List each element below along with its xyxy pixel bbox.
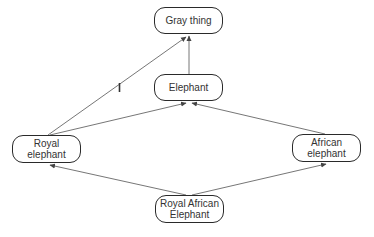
node-elephant: Elephant xyxy=(154,74,223,101)
node-royal-african-elephant: Royal African Elephant xyxy=(155,195,224,223)
node-gray-thing: Gray thing xyxy=(154,7,223,34)
node-label: Elephant xyxy=(169,82,208,93)
node-label-line-1: African xyxy=(311,137,342,148)
edge-royal-african-to-african-elephant xyxy=(192,164,326,195)
node-label-line-2: elephant xyxy=(307,148,345,159)
node-label: Gray thing xyxy=(165,15,211,26)
node-label-line-1: Royal xyxy=(34,138,60,149)
node-label-line-2: Elephant xyxy=(170,209,209,220)
node-royal-elephant: Royal elephant xyxy=(12,135,81,163)
node-label-line-1: Royal African xyxy=(160,198,219,209)
edge-african-elephant-to-elephant xyxy=(192,103,325,134)
edge-royal-african-to-royal-elephant xyxy=(50,165,186,195)
node-label-line-2: elephant xyxy=(27,149,65,160)
node-african-elephant: African elephant xyxy=(292,134,361,162)
